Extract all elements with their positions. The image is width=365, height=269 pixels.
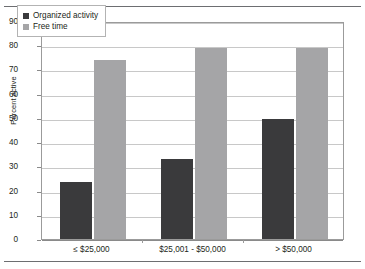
plot-frame [41, 22, 344, 240]
x-tick-label-2: > $50,000 [243, 245, 344, 254]
chart-legend: Organized activity Free time [17, 5, 106, 37]
y-tick-label-20: 20 [0, 187, 18, 196]
x-tick-label-1: $25,001 - $50,000 [142, 245, 243, 254]
plot-area [42, 23, 343, 239]
legend-item-organized-activity: Organized activity [23, 10, 98, 21]
bar-0-1 [161, 159, 193, 239]
legend-label-free-time: Free time [33, 21, 68, 32]
x-tick-mark-2 [243, 240, 244, 243]
y-tick-mark-0 [37, 240, 41, 241]
x-tick-mark-1 [142, 240, 143, 243]
y-tick-label-60: 60 [0, 90, 18, 99]
y-tick-label-30: 30 [0, 162, 18, 171]
bar-0-2 [262, 119, 294, 239]
legend-item-free-time: Free time [23, 21, 98, 32]
y-tick-label-80: 80 [0, 41, 18, 50]
bottom-rule [4, 261, 361, 262]
y-tick-label-10: 10 [0, 211, 18, 220]
bar-1-2 [296, 48, 328, 239]
legend-swatch-icon-free-time [23, 24, 29, 30]
figure: Percent active 9080706050403020100 ≤ $25… [0, 0, 365, 269]
y-tick-label-40: 40 [0, 138, 18, 147]
y-tick-label-90: 90 [0, 17, 18, 26]
x-tick-label-0: ≤ $25,000 [41, 245, 142, 254]
y-tick-label-50: 50 [0, 114, 18, 123]
legend-swatch-icon-organized-activity [23, 13, 29, 19]
bar-1-0 [94, 60, 126, 239]
bar-1-1 [195, 48, 227, 239]
y-tick-label-70: 70 [0, 65, 18, 74]
gridline-0 [42, 240, 343, 241]
bar-0-0 [60, 182, 92, 239]
y-tick-label-0: 0 [0, 235, 18, 244]
legend-label-organized-activity: Organized activity [33, 10, 98, 21]
